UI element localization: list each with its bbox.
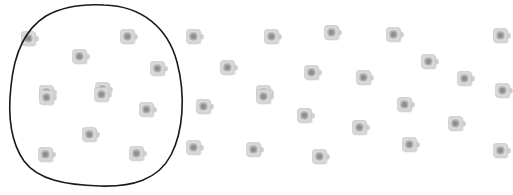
device-icon[interactable] bbox=[92, 84, 114, 106]
device-icon[interactable] bbox=[400, 134, 422, 156]
device-icon[interactable] bbox=[350, 117, 372, 139]
device-icon[interactable] bbox=[118, 26, 140, 48]
device-icon[interactable] bbox=[244, 139, 266, 161]
device-icon[interactable] bbox=[194, 96, 216, 118]
device-icon[interactable] bbox=[384, 24, 406, 46]
device-icon[interactable] bbox=[354, 67, 376, 89]
device-icon[interactable] bbox=[455, 68, 477, 90]
device-icon[interactable] bbox=[184, 26, 206, 48]
device-icon[interactable] bbox=[70, 46, 92, 68]
device-icon[interactable] bbox=[148, 58, 170, 80]
device-icon[interactable] bbox=[262, 26, 284, 48]
device-icon[interactable] bbox=[218, 57, 240, 79]
device-icon[interactable] bbox=[395, 94, 417, 116]
device-icon[interactable] bbox=[295, 105, 317, 127]
device-icon[interactable] bbox=[491, 25, 513, 47]
device-icon[interactable] bbox=[127, 143, 149, 165]
device-icon[interactable] bbox=[322, 22, 344, 44]
device-icon[interactable] bbox=[80, 124, 102, 146]
device-icon[interactable] bbox=[36, 144, 58, 166]
device-icon[interactable] bbox=[310, 146, 332, 168]
device-icon[interactable] bbox=[419, 51, 441, 73]
device-icon[interactable] bbox=[493, 80, 513, 102]
device-icon[interactable] bbox=[137, 99, 159, 121]
device-icon[interactable] bbox=[446, 113, 468, 135]
device-icon[interactable] bbox=[302, 62, 324, 84]
diagram-canvas bbox=[0, 0, 513, 195]
device-icon[interactable] bbox=[184, 137, 206, 159]
device-icon[interactable] bbox=[37, 87, 59, 109]
device-icon[interactable] bbox=[491, 140, 513, 162]
device-icon[interactable] bbox=[254, 86, 276, 108]
device-icon[interactable] bbox=[19, 28, 41, 50]
